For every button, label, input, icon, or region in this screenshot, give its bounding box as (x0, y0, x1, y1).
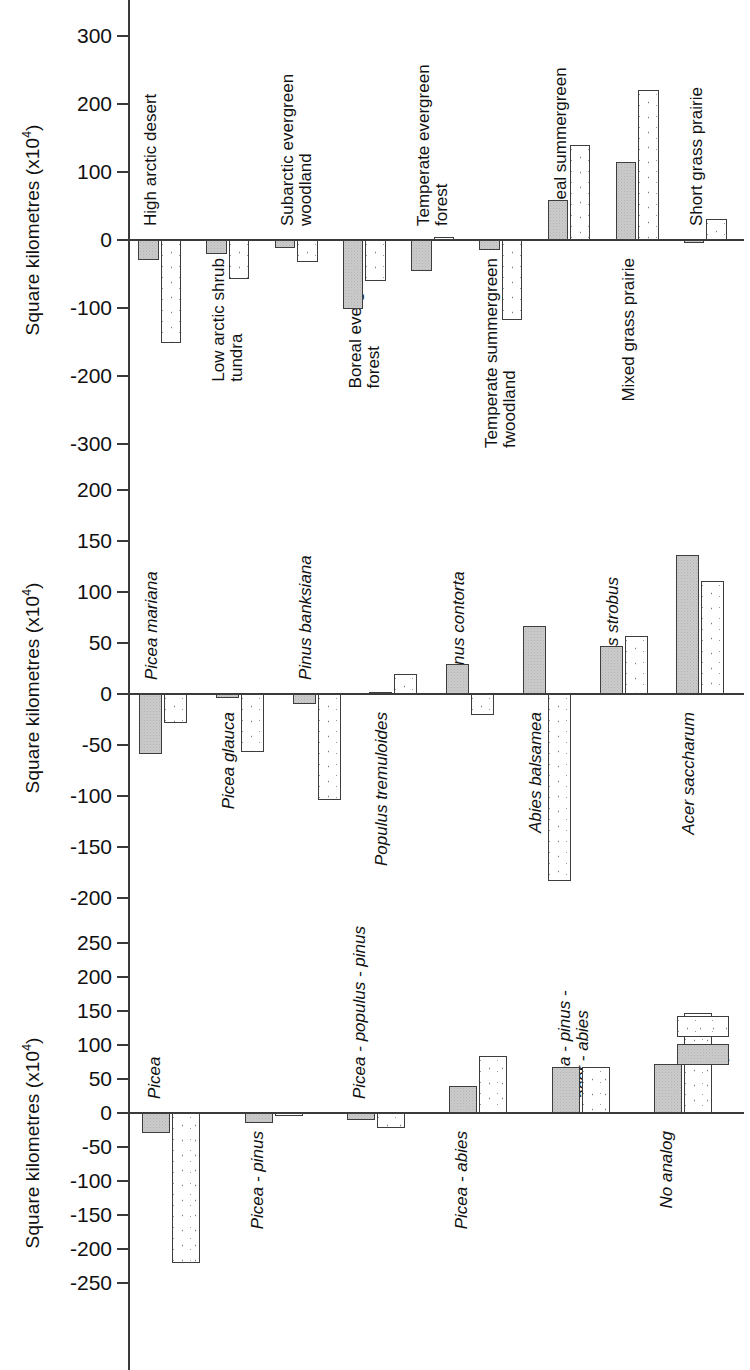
bar-group (369, 460, 417, 915)
y-axis-tick (117, 1214, 128, 1216)
bar-group (138, 0, 181, 460)
legend-item-giss: GISS (677, 1015, 730, 1038)
bar-gfdl (139, 694, 162, 754)
bar-gfdl (343, 240, 363, 309)
bar-group (293, 460, 341, 915)
legend-item-gfdl: GFDL (677, 1043, 730, 1066)
legend-swatch-gfdl (677, 1044, 729, 1065)
bar-gfdl (206, 240, 226, 254)
bar-gfdl (449, 1086, 477, 1113)
bar-giss (297, 240, 317, 262)
y-axis-tick (117, 540, 128, 542)
bar-group (411, 0, 454, 460)
bar-group (479, 0, 522, 460)
plot-area-panel-1: 3002001000-100-200-300 High arctic deser… (128, 0, 744, 460)
y-axis-tick (117, 1112, 128, 1114)
y-axis-tick-label: -100 (70, 1169, 112, 1193)
y-axis-tick-label: -200 (70, 364, 112, 388)
y-axis-tick (117, 591, 128, 593)
y-axis-tick (117, 1282, 128, 1284)
y-axis-tick (117, 1010, 128, 1012)
bar-giss (701, 581, 724, 694)
bar-group (216, 460, 264, 915)
bar-group (275, 0, 318, 460)
y-axis-tick (117, 1146, 128, 1148)
y-axis-tick (117, 1078, 128, 1080)
chart-panel-3: Square kilometres (x104) 250200150100500… (0, 915, 750, 1370)
bar-gfdl (600, 646, 623, 694)
bar-group (347, 915, 405, 1370)
y-axis-tick (117, 489, 128, 491)
y-axis-label-panel-3: Square kilometres (x104) (20, 993, 43, 1293)
bar-giss (365, 240, 385, 281)
bar-gfdl (616, 162, 636, 240)
chart-panel-1: Square kilometres (x104) 3002001000-100-… (0, 0, 750, 460)
y-axis-tick-label: -150 (70, 835, 112, 859)
bar-giss (471, 694, 494, 715)
bar-gfdl (369, 692, 392, 695)
bar-gfdl (293, 694, 316, 704)
y-axis-tick-label: -100 (70, 296, 112, 320)
bar-giss (582, 1067, 610, 1113)
bar-giss (229, 240, 249, 279)
bar-group (139, 460, 187, 915)
y-axis-tick-label: 0 (100, 228, 112, 252)
y-axis-tick (117, 171, 128, 173)
y-axis-tick (117, 693, 128, 695)
bar-group (600, 460, 648, 915)
y-axis-tick (117, 846, 128, 848)
bar-gfdl (548, 200, 568, 240)
bar-group-container-panel-2: Picea marianaPicea glaucaPinus banksiana… (130, 460, 744, 915)
bar-group-container-panel-3: PiceaPicea - pinusPicea - populus - pinu… (130, 915, 744, 1370)
y-axis-tick-label: 50 (89, 1067, 112, 1091)
y-axis-tick (117, 942, 128, 944)
bar-giss (625, 636, 648, 694)
y-axis-tick (117, 239, 128, 241)
y-axis-tick (117, 443, 128, 445)
bar-gfdl (684, 240, 704, 243)
y-axis-tick-label: -300 (70, 432, 112, 456)
bar-gfdl (216, 694, 239, 698)
y-axis-tick-label: 0 (100, 682, 112, 706)
y-axis-tick-label: 150 (77, 999, 112, 1023)
y-axis-tick (117, 35, 128, 37)
bar-group (654, 915, 712, 1370)
y-axis-tick-label: 50 (89, 631, 112, 655)
chart-panel-2: Square kilometres (x104) 200150100500-50… (0, 460, 750, 915)
y-axis-tick (117, 795, 128, 797)
y-axis-tick-label: -250 (70, 1271, 112, 1295)
y-axis-label-panel-1: Square kilometres (x104) (20, 80, 43, 380)
bar-gfdl (654, 1064, 682, 1113)
bar-gfdl (347, 1113, 375, 1120)
bar-group (449, 915, 507, 1370)
bar-gfdl (275, 240, 295, 248)
y-axis-tick (117, 375, 128, 377)
bar-giss (638, 90, 658, 240)
y-axis-tick-label: 200 (77, 92, 112, 116)
y-axis-tick-label: -150 (70, 1203, 112, 1227)
plot-area-panel-3: 250200150100500-50-100-150-200-250 Picea… (128, 915, 744, 1370)
bar-gfdl (552, 1067, 580, 1113)
y-axis-tick-label: -100 (70, 784, 112, 808)
y-axis-tick-label: 100 (77, 1033, 112, 1057)
bar-giss (570, 145, 590, 240)
bar-gfdl (142, 1113, 170, 1133)
bar-group (446, 460, 494, 915)
y-axis-label-panel-2: Square kilometres (x104) (20, 538, 43, 838)
figure-three-panel-bar-charts: Square kilometres (x104) 3002001000-100-… (0, 0, 750, 1370)
bar-giss (706, 219, 726, 240)
y-axis-tick-label: 150 (77, 529, 112, 553)
bar-group (343, 0, 386, 460)
bar-giss (164, 694, 187, 723)
bar-gfdl (245, 1113, 273, 1123)
y-axis-tick-label: 200 (77, 478, 112, 502)
chart-legend: GISSGFDL (677, 1015, 730, 1066)
bar-gfdl (523, 626, 546, 694)
bar-group (676, 460, 724, 915)
y-axis-tick (117, 103, 128, 105)
bar-gfdl (479, 240, 499, 250)
y-axis-tick-label: -200 (70, 886, 112, 910)
y-axis-tick-label: 100 (77, 580, 112, 604)
bar-giss (502, 240, 522, 320)
y-axis-tick-label: 100 (77, 160, 112, 184)
